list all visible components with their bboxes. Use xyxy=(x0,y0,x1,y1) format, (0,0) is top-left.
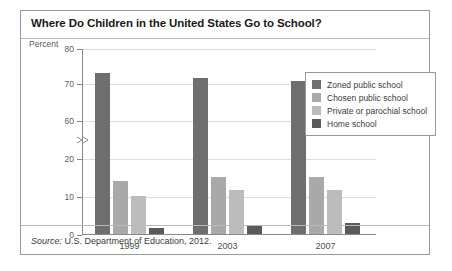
bar xyxy=(229,190,244,234)
figure-panel: Where Do Children in the United States G… xyxy=(20,10,430,255)
legend-swatch-icon xyxy=(312,80,321,89)
legend-item: Chosen public school xyxy=(312,91,427,104)
y-tick-label: 10 xyxy=(65,192,74,202)
bar-group xyxy=(95,48,164,234)
legend-swatch-icon xyxy=(312,106,321,115)
y-tick-label: 60 xyxy=(65,116,74,126)
legend-item-label: Home school xyxy=(327,119,377,129)
x-tick-label: 2007 xyxy=(315,241,335,251)
plot-wrapper: Percent 80706020100 199920032007 Zoned p… xyxy=(21,38,429,224)
legend-item: Zoned public school xyxy=(312,78,427,91)
chart-legend: Zoned public schoolChosen public schoolP… xyxy=(305,72,436,136)
y-tick-mark xyxy=(77,121,82,122)
bar xyxy=(291,81,306,234)
legend-swatch-icon xyxy=(312,119,321,128)
legend-item: Private or parochial school xyxy=(312,104,427,117)
y-tick-label: 20 xyxy=(65,154,74,164)
bar xyxy=(247,225,262,234)
legend-item: Home school xyxy=(312,117,427,130)
bar xyxy=(327,190,342,234)
legend-item-label: Chosen public school xyxy=(327,93,408,103)
legend-item-label: Private or parochial school xyxy=(327,106,427,116)
y-axis-title: Percent xyxy=(29,39,58,49)
bar xyxy=(131,196,146,234)
source-label: Source: xyxy=(31,236,62,246)
y-tick-label: 80 xyxy=(65,44,74,54)
source-value: U.S. Department of Education, 2012. xyxy=(62,236,212,246)
figure-title: Where Do Children in the United States G… xyxy=(31,17,322,29)
legend-item-label: Zoned public school xyxy=(327,80,403,90)
bar xyxy=(113,181,128,234)
bar xyxy=(95,73,110,235)
source-divider xyxy=(21,225,429,226)
bar-group xyxy=(193,48,262,234)
bar xyxy=(149,228,164,234)
y-tick-mark xyxy=(77,84,82,85)
y-tick-mark xyxy=(77,159,82,160)
y-tick-mark xyxy=(77,49,82,50)
y-tick-label: 70 xyxy=(65,79,74,89)
x-axis-line xyxy=(82,234,376,235)
bar xyxy=(193,78,208,234)
source-note: Source: U.S. Department of Education, 20… xyxy=(31,236,212,246)
legend-swatch-icon xyxy=(312,93,321,102)
y-tick-mark xyxy=(77,197,82,198)
x-tick-label: 2003 xyxy=(217,241,237,251)
